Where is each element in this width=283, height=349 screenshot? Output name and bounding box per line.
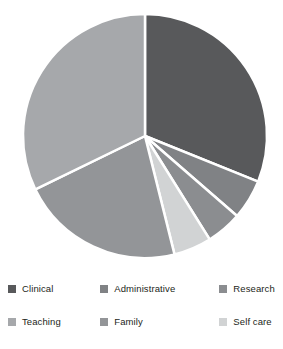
legend-item-label: Clinical	[22, 283, 53, 294]
pie-chart-svg	[0, 0, 283, 272]
legend-item-clinical[interactable]: Clinical	[8, 283, 100, 294]
chart-legend: Clinical Administrative Research Teachin…	[0, 283, 283, 349]
legend-item-family[interactable]: Family	[100, 316, 219, 327]
pie-chart-figure: Clinical Administrative Research Teachin…	[0, 0, 283, 349]
legend-row: Teaching Family Self care	[8, 316, 277, 349]
legend-item-label: Self care	[233, 316, 271, 327]
legend-swatch-icon	[100, 318, 108, 326]
legend-item-label: Family	[114, 316, 143, 327]
legend-swatch-icon	[219, 285, 227, 293]
pie-chart-plot-area	[0, 0, 283, 272]
legend-item-teaching[interactable]: Teaching	[8, 316, 100, 327]
legend-swatch-icon	[219, 318, 227, 326]
legend-item-label: Teaching	[22, 316, 61, 327]
legend-item-administrative[interactable]: Administrative	[100, 283, 219, 294]
legend-swatch-icon	[8, 285, 16, 293]
legend-row: Clinical Administrative Research	[8, 283, 277, 316]
legend-item-self-care[interactable]: Self care	[219, 316, 277, 327]
pie-slice-group	[23, 14, 267, 258]
legend-item-label: Administrative	[114, 283, 175, 294]
legend-swatch-icon	[8, 318, 16, 326]
legend-item-label: Research	[233, 283, 274, 294]
legend-item-research[interactable]: Research	[219, 283, 277, 294]
legend-swatch-icon	[100, 285, 108, 293]
